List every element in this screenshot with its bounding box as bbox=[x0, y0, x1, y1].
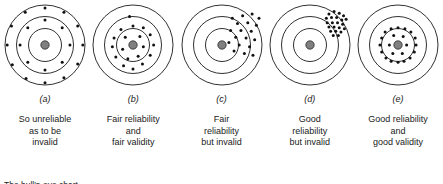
panel-letter-d: (d) bbox=[304, 94, 315, 105]
shot-dot bbox=[230, 17, 233, 20]
shot-dot bbox=[384, 31, 387, 34]
shot-dot bbox=[390, 60, 393, 63]
shot-dot bbox=[248, 45, 251, 48]
shot-dot bbox=[239, 29, 242, 32]
target-center-bullseye bbox=[306, 41, 314, 49]
shot-dot bbox=[44, 19, 47, 22]
shot-dot bbox=[246, 21, 249, 24]
bullseye-figure: (a) So unreliable as to be invalid (b) F… bbox=[0, 0, 443, 184]
shot-dot bbox=[137, 55, 140, 58]
target-panel-c: (c) Fair reliability but invalid bbox=[179, 2, 265, 149]
target-diagram-c bbox=[179, 2, 265, 88]
shot-dot bbox=[132, 68, 135, 71]
panel-caption-c: Fair reliability but invalid bbox=[201, 114, 242, 149]
shot-dot bbox=[380, 37, 383, 40]
shot-dot bbox=[237, 44, 240, 47]
shot-dot bbox=[122, 64, 125, 67]
shot-dot bbox=[414, 37, 417, 40]
shot-dot bbox=[127, 57, 130, 60]
shot-dot bbox=[343, 27, 346, 30]
shot-dot bbox=[325, 21, 328, 24]
shot-dot bbox=[44, 7, 47, 10]
shot-dot bbox=[76, 25, 79, 28]
shot-dot bbox=[234, 36, 237, 39]
shot-dot bbox=[26, 61, 29, 64]
shot-dot bbox=[68, 44, 71, 47]
shot-dot bbox=[142, 26, 145, 29]
panel-caption-e: Good reliability and good validity bbox=[368, 114, 428, 149]
shot-dot bbox=[409, 31, 412, 34]
shot-dot bbox=[327, 25, 330, 28]
shot-dot bbox=[227, 41, 230, 44]
shot-dot bbox=[332, 10, 335, 13]
shot-dot bbox=[415, 44, 418, 47]
shot-dot bbox=[402, 35, 405, 38]
shot-dot bbox=[336, 21, 339, 24]
panel-caption-a: So unreliable as to be invalid bbox=[19, 114, 72, 149]
target-center-bullseye bbox=[41, 41, 49, 49]
shot-dot bbox=[405, 44, 408, 47]
shot-dot bbox=[403, 27, 406, 30]
target-diagram-e bbox=[355, 2, 441, 88]
shot-dot bbox=[244, 37, 247, 40]
target-center-bullseye bbox=[129, 41, 137, 49]
target-diagram-b bbox=[90, 2, 176, 88]
panel-letter-b: (b) bbox=[128, 94, 139, 105]
shot-dot bbox=[132, 25, 135, 28]
shot-dot bbox=[111, 45, 114, 48]
panel-caption-d: Good reliability but invalid bbox=[289, 114, 330, 149]
shot-dot bbox=[331, 21, 334, 24]
shot-dot bbox=[378, 44, 381, 47]
shot-dot bbox=[257, 17, 260, 20]
shot-dot bbox=[249, 30, 252, 33]
shot-dot bbox=[76, 62, 79, 65]
shot-dot bbox=[331, 34, 334, 37]
target-diagram-d bbox=[267, 2, 353, 88]
shot-dot bbox=[142, 45, 145, 48]
shot-dot bbox=[120, 28, 123, 31]
panel-letter-e: (e) bbox=[393, 94, 404, 105]
shot-dot bbox=[152, 44, 155, 47]
panel-caption-b: Fair reliability and fair validity bbox=[107, 114, 160, 149]
shot-dot bbox=[11, 63, 14, 66]
shot-dot bbox=[44, 81, 47, 84]
shot-dot bbox=[26, 26, 29, 29]
target-center-bullseye bbox=[394, 41, 402, 49]
target-panel-e: (e) Good reliability and good validity bbox=[355, 2, 441, 149]
shot-dot bbox=[409, 56, 412, 59]
shot-dot bbox=[229, 29, 232, 32]
shot-dot bbox=[337, 12, 340, 15]
shot-dot bbox=[392, 34, 395, 37]
shot-dot bbox=[124, 36, 127, 39]
target-panel-a: (a) So unreliable as to be invalid bbox=[2, 2, 88, 149]
targets-row: (a) So unreliable as to be invalid (b) F… bbox=[0, 0, 443, 149]
shot-dot bbox=[332, 25, 335, 28]
shot-dot bbox=[339, 31, 342, 34]
shot-dot bbox=[335, 16, 338, 19]
target-panel-d: (d) Good reliability but invalid bbox=[267, 2, 353, 149]
panel-letter-a: (a) bbox=[40, 94, 51, 105]
shot-dot bbox=[232, 50, 235, 53]
shot-dot bbox=[149, 54, 152, 57]
shot-dot bbox=[113, 37, 116, 40]
shot-dot bbox=[235, 22, 238, 25]
shot-dot bbox=[251, 54, 254, 57]
shot-dot bbox=[141, 62, 144, 65]
shot-dot bbox=[391, 52, 394, 55]
shot-dot bbox=[250, 13, 253, 16]
shot-dot bbox=[81, 44, 84, 47]
target-diagram-a bbox=[2, 2, 88, 88]
shot-dot bbox=[61, 61, 64, 64]
shot-dot bbox=[25, 77, 28, 80]
shot-dot bbox=[342, 14, 345, 17]
shot-dot bbox=[401, 52, 404, 55]
shot-dot bbox=[6, 44, 9, 47]
panel-letter-c: (c) bbox=[216, 94, 227, 105]
shot-dot bbox=[253, 38, 256, 41]
shot-dot bbox=[337, 26, 340, 29]
shot-dot bbox=[403, 60, 406, 63]
shot-dot bbox=[337, 34, 340, 37]
shot-dot bbox=[121, 48, 124, 51]
shot-dot bbox=[334, 30, 337, 33]
shot-dot bbox=[340, 19, 343, 22]
